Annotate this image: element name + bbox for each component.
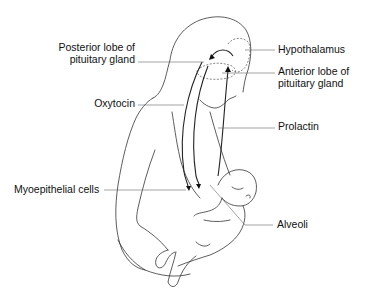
label-myoepithelial-cells: Myoepithelial cells (14, 183, 99, 195)
alveoli-text: Alveoli (277, 218, 308, 230)
posterior-lobe-line1: Posterior lobe of (40, 41, 135, 53)
leader-alveoli (210, 185, 273, 225)
label-oxytocin: Oxytocin (60, 97, 135, 109)
posterior-lobe-line2: pituitary gland (40, 53, 135, 65)
label-posterior-lobe: Posterior lobe of pituitary gland (40, 41, 135, 65)
arrowhead-oxytocin-1 (186, 186, 191, 191)
baby-body (194, 198, 222, 216)
anterior-lobe-line1: Anterior lobe of (278, 65, 349, 77)
oxytocin-arrow-1 (182, 62, 202, 186)
oxytocin-arrow-2 (194, 66, 208, 184)
label-alveoli: Alveoli (277, 218, 308, 230)
arrowhead-prolactin (225, 66, 231, 72)
lactation-reflex-diagram: Posterior lobe of pituitary gland Oxytoc… (0, 0, 368, 295)
label-prolactin: Prolactin (278, 120, 319, 132)
label-hypothalamus: Hypothalamus (278, 43, 345, 55)
arrowhead-oxytocin-2 (196, 184, 201, 189)
prolactin-arrow (218, 70, 228, 176)
hypothalamus-text: Hypothalamus (278, 43, 345, 55)
prolactin-text: Prolactin (278, 120, 319, 132)
anterior-lobe-line2: pituitary gland (278, 77, 349, 89)
neural-arrow (212, 50, 233, 56)
hypothalamus-shape (228, 38, 250, 72)
label-anterior-lobe: Anterior lobe of pituitary gland (278, 65, 349, 89)
myoepithelial-text: Myoepithelial cells (14, 183, 99, 195)
oxytocin-text: Oxytocin (94, 97, 135, 109)
arrowhead-posterior (209, 54, 215, 60)
